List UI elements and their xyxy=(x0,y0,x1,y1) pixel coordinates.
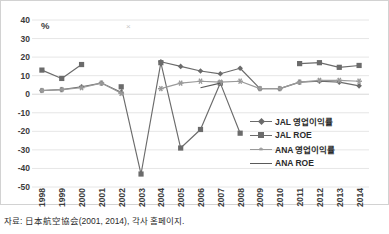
data-point-marker xyxy=(59,76,64,81)
series-line xyxy=(121,63,240,174)
y-axis-tick: -20 xyxy=(4,127,30,136)
x-axis-tick: 2002 xyxy=(117,188,127,207)
y-axis-tick: -50 xyxy=(4,183,30,192)
series-line xyxy=(300,63,359,68)
data-point-marker xyxy=(178,81,184,86)
data-point-marker xyxy=(198,127,203,132)
data-point-marker xyxy=(317,60,322,65)
legend-key-icon xyxy=(250,143,272,155)
data-point-marker xyxy=(79,62,84,67)
data-point-marker xyxy=(119,84,124,89)
y-axis-tick: 0 xyxy=(4,90,30,99)
data-point-marker xyxy=(198,68,204,74)
x-axis-tick: 2009 xyxy=(255,188,265,207)
x-axis-tick: 2012 xyxy=(315,188,325,207)
legend-item[interactable]: JAL 영업이익률 xyxy=(250,114,386,128)
data-point-marker xyxy=(238,131,243,136)
data-point-marker xyxy=(138,171,143,176)
data-point-marker xyxy=(39,68,44,73)
data-point-marker xyxy=(158,86,164,91)
data-point-marker xyxy=(158,60,163,65)
chart-legend: JAL 영업이익률JAL ROEANA 영업이익률ANA ROE xyxy=(250,114,386,170)
legend-item-label: ANA ROE xyxy=(275,158,314,168)
data-point-marker xyxy=(198,79,204,84)
data-point-marker xyxy=(178,145,183,150)
x-axis-tick: 2006 xyxy=(196,188,206,207)
series-JAL 영업이익률 xyxy=(39,59,362,95)
x-axis-tick: 2010 xyxy=(275,188,285,207)
legend-key-icon xyxy=(250,115,272,127)
x-axis-tick: 2005 xyxy=(176,188,186,207)
y-axis-tick: 10 xyxy=(4,71,30,80)
y-axis-tick: -40 xyxy=(4,164,30,173)
chart-screenshot: % × 403020100-10-20-30-40-50 19981999200… xyxy=(0,0,389,234)
legend-item-label: JAL 영업이익률 xyxy=(275,115,333,127)
legend-marker-diamond-icon xyxy=(257,117,264,124)
legend-marker-square-icon xyxy=(258,132,264,138)
x-axis-tick: 2000 xyxy=(77,188,87,207)
y-axis-tick: -10 xyxy=(4,108,30,117)
x-axis-tick: 2014 xyxy=(355,188,365,207)
x-axis-tick: 2008 xyxy=(236,188,246,207)
series-line xyxy=(201,83,221,88)
x-axis-tick: 2011 xyxy=(295,188,305,206)
data-point-marker xyxy=(237,79,243,84)
x-axis-tick: 2004 xyxy=(156,188,166,207)
legend-key-icon xyxy=(250,157,272,169)
data-point-marker xyxy=(356,79,362,84)
x-axis-tick: 2007 xyxy=(216,188,226,207)
y-axis-tick: 30 xyxy=(4,34,30,43)
legend-item[interactable]: ANA ROE xyxy=(250,156,386,170)
data-point-marker xyxy=(356,63,361,68)
legend-item[interactable]: JAL ROE xyxy=(250,128,386,142)
x-axis-tick: 2001 xyxy=(97,188,107,207)
x-axis-tick: 2003 xyxy=(137,188,147,207)
y-axis-tick-labels: 403020100-10-20-30-40-50 xyxy=(1,20,30,187)
data-point-marker xyxy=(356,83,362,89)
x-axis-tick: 1998 xyxy=(37,188,47,207)
series-ANA ROE xyxy=(201,83,221,88)
x-axis-tick: 1999 xyxy=(57,188,67,207)
y-axis-tick: -30 xyxy=(4,145,30,154)
source-note: 자료: 日本航空協会(2001, 2014), 각사 홈페이지. xyxy=(4,214,184,226)
y-axis-tick: 40 xyxy=(4,16,30,25)
legend-item-label: ANA 영업이익률 xyxy=(275,143,335,155)
data-point-marker xyxy=(337,65,342,70)
legend-item-label: JAL ROE xyxy=(275,130,312,140)
data-point-marker xyxy=(297,61,302,66)
data-point-marker xyxy=(178,64,184,70)
x-axis-tick: 2013 xyxy=(335,188,345,207)
y-axis-tick: 20 xyxy=(4,53,30,62)
legend-item[interactable]: ANA 영업이익률 xyxy=(250,142,386,156)
legend-key-icon xyxy=(250,129,272,141)
chart-container: % × 403020100-10-20-30-40-50 19981999200… xyxy=(0,0,389,205)
series-ANA 영업이익률 xyxy=(39,78,362,96)
